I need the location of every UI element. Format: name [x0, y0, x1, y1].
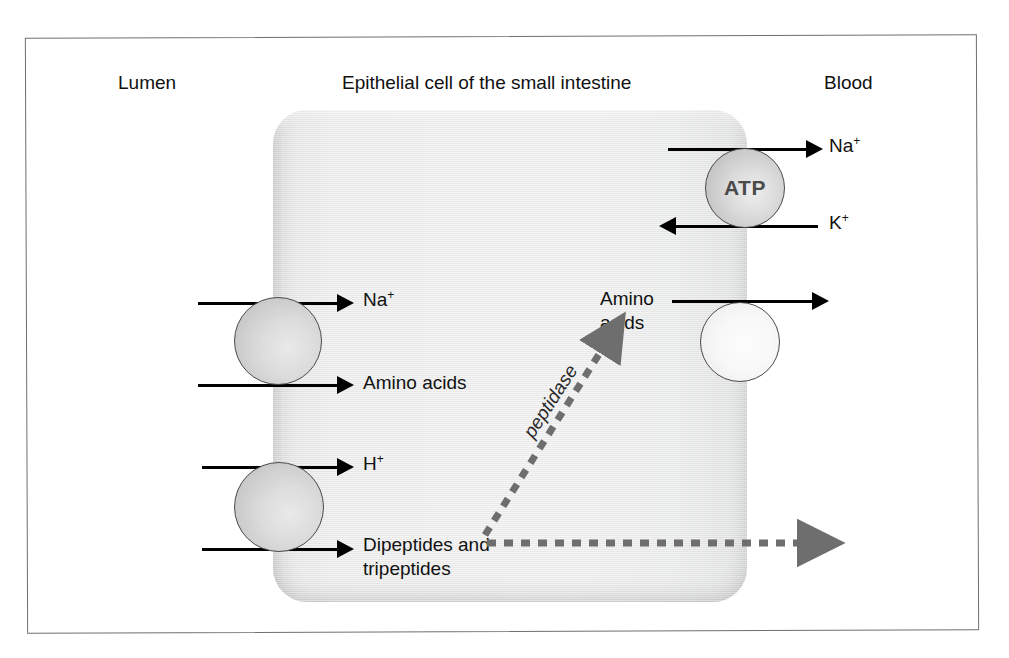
- compartment-label-blood: Blood: [824, 71, 873, 95]
- arrow-k-influx-head: [659, 217, 676, 235]
- label-k-blood: K+: [829, 211, 849, 235]
- label-k-blood-text: K: [829, 212, 842, 233]
- label-amino-acids-lumen: Amino acids: [363, 371, 467, 395]
- arrow-aa-influx-line: [198, 384, 340, 387]
- label-na-cytosol: Na+: [363, 288, 394, 312]
- label-na-blood: Na+: [829, 134, 860, 158]
- figure-title: Epithelial cell of the small intestine: [342, 71, 631, 95]
- arrow-h-influx-head: [337, 458, 354, 476]
- label-na-cytosol-text: Na: [363, 289, 387, 310]
- figure-root: Lumen Epithelial cell of the small intes…: [0, 0, 1009, 658]
- label-na-blood-text: Na: [829, 135, 853, 156]
- label-dipeptides-tripeptides: Dipeptides and tripeptides: [363, 533, 513, 581]
- label-h-cytosol-text: H: [363, 453, 377, 474]
- arrow-peptide-influx-head: [337, 540, 354, 558]
- label-na-blood-charge: +: [853, 134, 860, 148]
- transporter-amino-acid-facilitated: [700, 302, 780, 382]
- label-h-cytosol-charge: +: [377, 452, 384, 466]
- label-na-cytosol-charge: +: [387, 288, 394, 302]
- epithelial-cell-body: [273, 110, 747, 602]
- label-amino-acids-cytosol: Amino acids: [600, 287, 690, 335]
- arrow-na-influx-head: [337, 294, 354, 312]
- arrow-aa-efflux-head: [812, 292, 829, 310]
- transporter-h-peptide-cotransporter: [234, 462, 324, 552]
- label-h-cytosol: H+: [363, 452, 384, 476]
- compartment-label-lumen: Lumen: [118, 71, 176, 95]
- transporter-na-k-atpase: ATP: [705, 148, 785, 228]
- arrow-aa-influx-head: [337, 376, 354, 394]
- transporter-na-amino-acid-cotransporter: [234, 297, 322, 385]
- atp-label: ATP: [724, 176, 766, 200]
- label-k-blood-charge: +: [842, 211, 849, 225]
- arrow-na-efflux-head: [806, 140, 823, 158]
